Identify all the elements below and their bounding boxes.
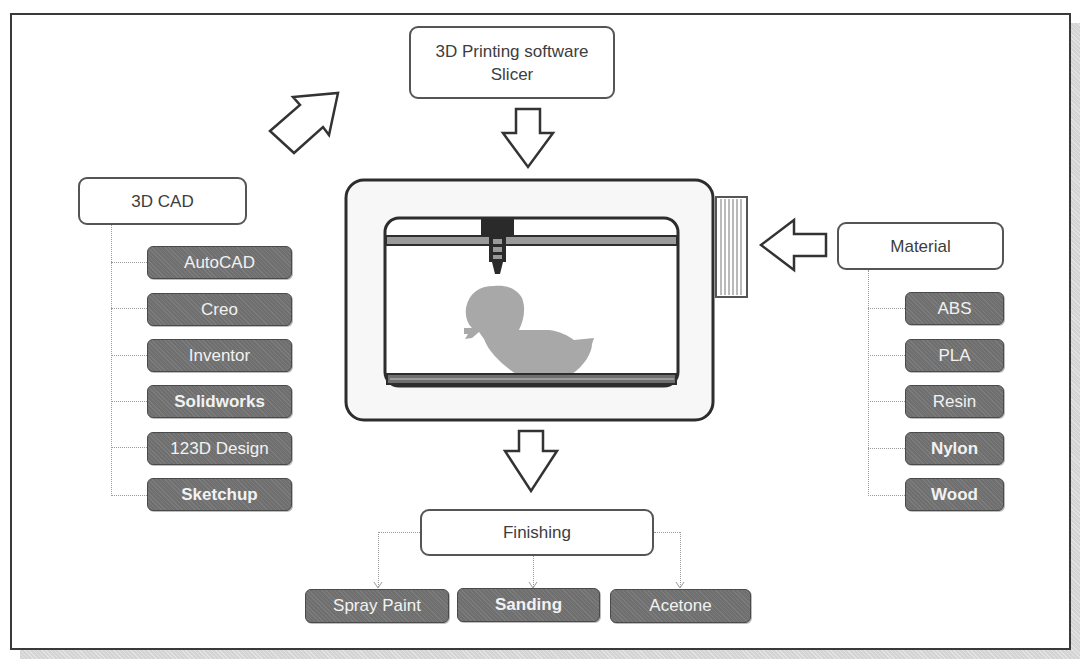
finishing-item-sanding: Sanding: [457, 588, 600, 622]
finishing-item-spray-paint: Spray Paint: [305, 589, 449, 623]
finishing-item-acetone: Acetone: [610, 589, 751, 623]
connector-arrowheads: [0, 0, 1088, 662]
